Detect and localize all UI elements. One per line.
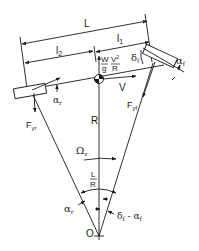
rear-distance-label: l2 [56, 45, 62, 57]
svg-text:R: R [90, 180, 96, 189]
front-slip-label: αf [176, 55, 186, 67]
rear-slip-label: αr [53, 95, 62, 106]
bottom-front-pointer [108, 211, 114, 214]
svg-text:L: L [91, 170, 96, 179]
svg-text:V2: V2 [111, 54, 119, 64]
center-point-label: O [86, 228, 94, 239]
bottom-front-angle-label: δf - αf [117, 211, 143, 222]
vehicle-cornering-diagram: L l1 l2 W g V2 R V Fyf Fyr αf αr δf R Ωz… [0, 0, 199, 251]
yaw-rate-arc [84, 158, 116, 160]
radius-line-rear [33, 95, 99, 236]
front-slip-tick-bottom [172, 77, 175, 80]
wheelbase-over-radius-label: L R [90, 170, 97, 189]
velocity-arrow [103, 76, 136, 79]
front-lateral-force-label: Fyf [127, 100, 138, 111]
cg-extension-line [94, 46, 96, 62]
centrifugal-force-label: W g V2 R [101, 54, 120, 73]
wheelbase-over-radius-arc [81, 189, 116, 193]
center-of-gravity-icon [95, 75, 104, 84]
bottom-rear-angle-label: αr [64, 203, 74, 215]
svg-text:g: g [102, 64, 106, 73]
rear-lateral-force-arrow [34, 93, 35, 112]
svg-text:W: W [101, 55, 109, 64]
front-distance-label: l1 [117, 33, 123, 45]
svg-text:R: R [112, 64, 118, 73]
wheelbase-label: L [84, 18, 90, 29]
velocity-label: V [119, 82, 126, 93]
front-wheel [142, 44, 177, 67]
yaw-rate-label: Ωz [76, 145, 87, 157]
steer-angle-label: δf [131, 52, 140, 64]
rear-lateral-force-label: Fyr [26, 120, 37, 131]
radius-label: R [91, 115, 98, 126]
